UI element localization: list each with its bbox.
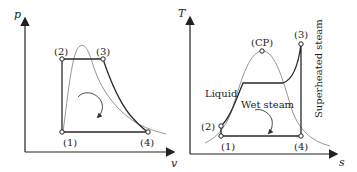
ts-point-4 [299, 134, 303, 138]
rankine-cycle-figure: p v (1) (2) (3) (4) T s [0, 0, 357, 172]
ts-critical-point [260, 49, 264, 53]
ts-region-superheated-label: Superheated steam [313, 19, 324, 118]
ts-y-axis-label: T [178, 7, 187, 20]
ts-cycle-direction-arrow-icon [255, 110, 272, 133]
pv-x-axis-label: v [171, 157, 178, 170]
pv-point-3-label: (3) [96, 46, 110, 57]
pv-point-4-label: (4) [140, 137, 154, 148]
ts-point-2 [219, 124, 223, 128]
ts-region-wet-steam-label: Wet steam [241, 99, 295, 110]
ts-point-2-label: (2) [201, 121, 215, 132]
pv-diagram: p v (1) (2) (3) (4) [14, 8, 178, 170]
ts-point-4-label: (4) [294, 141, 308, 152]
pv-point-2-label: (2) [54, 46, 68, 57]
pv-point-2 [60, 57, 64, 61]
ts-point-1-label: (1) [221, 141, 235, 152]
pv-point-3 [101, 57, 105, 61]
pv-point-4 [146, 130, 150, 134]
pv-point-1 [60, 130, 64, 134]
ts-critical-point-label: (CP) [251, 37, 273, 48]
pv-cycle-path [62, 59, 148, 132]
ts-point-3 [299, 42, 303, 46]
pv-y-axis-label: p [14, 8, 21, 21]
ts-diagram: T s (CP) (1) (2) (3) (4) Liquid Wet stea… [178, 7, 345, 169]
ts-point-1 [219, 134, 223, 138]
ts-region-liquid-label: Liquid [205, 88, 238, 99]
ts-point-3-label: (3) [294, 29, 308, 40]
pv-cycle-direction-arrow-icon [78, 93, 102, 117]
pv-point-1-label: (1) [63, 137, 77, 148]
ts-x-axis-label: s [339, 156, 345, 169]
